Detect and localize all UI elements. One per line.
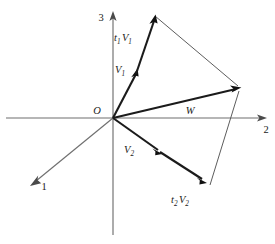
- vector-group: [113, 15, 241, 185]
- vector-v2-label: V2: [124, 144, 134, 158]
- vector-t2v2-shaft: [160, 152, 202, 179]
- edge-bottom-right: [210, 91, 239, 185]
- v2-subscript: 2: [130, 150, 134, 158]
- construction-edges: [155, 16, 239, 185]
- t2v2-t-subscript: 2: [174, 200, 178, 208]
- axis-1-line: [36, 118, 113, 181]
- axis-2-label: 2: [263, 124, 268, 135]
- axis-3-label: 3: [98, 12, 103, 23]
- t1v1-v-subscript: 1: [128, 38, 132, 46]
- vector-v2-shaft: [113, 118, 158, 150]
- edge-top-right: [155, 16, 238, 86]
- vector-diagram-figure: 3 2 1 O V1 t1V1 V2 t2V2 W: [0, 0, 275, 244]
- vector-w-label: W: [186, 105, 196, 116]
- vector-v1-label: V1: [115, 64, 125, 78]
- label-group: 3 2 1 O V1 t1V1 V2 t2V2 W: [41, 12, 268, 208]
- vector-t1v1-label: t1V1: [114, 32, 132, 46]
- v1-subscript: 1: [121, 70, 125, 78]
- vector-w-shaft: [113, 89, 236, 118]
- vector-v1-shaft: [113, 74, 136, 118]
- vector-t1v1-shaft: [136, 21, 154, 74]
- t2v2-v-subscript: 2: [185, 200, 189, 208]
- axis-1-label: 1: [41, 181, 46, 192]
- vector-diagram-canvas: 3 2 1 O V1 t1V1 V2 t2V2 W: [0, 0, 275, 244]
- origin-label: O: [93, 105, 101, 116]
- t1v1-t-subscript: 1: [117, 38, 121, 46]
- vector-t2v2-label: t2V2: [171, 194, 189, 208]
- axis-1-arrowhead: [30, 176, 41, 186]
- axis-group: [6, 11, 267, 235]
